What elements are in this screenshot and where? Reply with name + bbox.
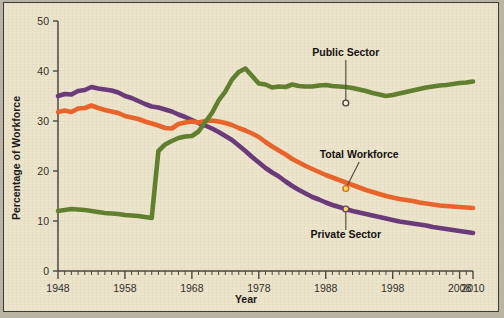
annotation-marker-private-sector bbox=[343, 206, 349, 212]
figure-container: 0102030405019481958196819781988199820082… bbox=[0, 0, 504, 318]
y-axis-tick-label: 20 bbox=[37, 165, 49, 177]
y-axis-tick-label: 50 bbox=[37, 15, 49, 27]
y-axis-title: Percentage of Workforce bbox=[10, 96, 22, 220]
annotation-marker-public-sector bbox=[343, 100, 349, 106]
chart-plate: 0102030405019481958196819781988199820082… bbox=[3, 2, 499, 312]
annotation-label-total-workforce: Total Workforce bbox=[320, 148, 399, 160]
annotation-label-public-sector: Public Sector bbox=[312, 46, 379, 58]
line-chart: 0102030405019481958196819781988199820082… bbox=[4, 3, 499, 312]
series-line-private-sector bbox=[58, 87, 473, 233]
y-axis-tick-label: 30 bbox=[37, 115, 49, 127]
x-axis-tick-label: 1988 bbox=[314, 282, 338, 294]
annotation-marker-total-workforce bbox=[343, 186, 349, 192]
x-axis-tick-label: 1948 bbox=[46, 282, 70, 294]
x-axis-tick-label: 1958 bbox=[113, 282, 137, 294]
x-axis-tick-label: 1998 bbox=[381, 282, 405, 294]
x-axis-tick-label: 1968 bbox=[180, 282, 204, 294]
y-axis-tick-label: 10 bbox=[37, 215, 49, 227]
x-axis-title: Year bbox=[235, 293, 257, 305]
series-line-total-workforce bbox=[58, 106, 473, 209]
x-axis-tick-label: 2010 bbox=[461, 282, 485, 294]
series-layer bbox=[58, 69, 473, 234]
annotation-label-private-sector: Private Sector bbox=[311, 228, 382, 240]
y-axis-tick-label: 0 bbox=[43, 265, 49, 277]
y-axis-tick-label: 40 bbox=[37, 65, 49, 77]
axis-layer: 0102030405019481958196819781988199820082… bbox=[37, 15, 485, 294]
